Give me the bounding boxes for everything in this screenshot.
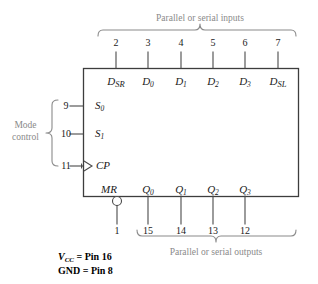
top-section-caption: Parallel or serial inputs <box>156 14 244 24</box>
power-pin-note-0: VCC = Pin 16 <box>58 252 112 262</box>
output-pin-number-14: 14 <box>176 226 186 236</box>
input-pin-number-7: 7 <box>276 38 281 48</box>
power-pin-note-1: GND = Pin 8 <box>58 266 113 276</box>
top-brace <box>98 24 296 36</box>
output-signal-label-0: Q0 <box>142 184 154 195</box>
input-signal-label-0: DSR <box>107 76 124 87</box>
left-pin-number-10: 10 <box>61 129 71 139</box>
input-pin-number-3: 3 <box>146 38 151 48</box>
input-pin-number-4: 4 <box>179 38 184 48</box>
master-reset-inversion-bubble-icon <box>113 197 122 206</box>
mode-control-caption: Modecontrol <box>12 120 39 144</box>
input-pin-number-5: 5 <box>211 38 216 48</box>
left-pin-number-9: 9 <box>64 101 69 111</box>
mode-signal-label-1: S1 <box>95 128 104 139</box>
clock-signal-label: CP <box>96 160 110 171</box>
input-signal-label-4: D3 <box>239 76 251 87</box>
input-signal-label-2: D1 <box>175 76 187 87</box>
pin-diagram-canvas: Parallel or serial inputs2DSR3D04D15D26D… <box>0 0 318 284</box>
output-pin-number-13: 13 <box>208 226 218 236</box>
master-reset-label: MR <box>101 184 117 195</box>
output-pin-number-15: 15 <box>143 226 153 236</box>
clock-lead-arrowhead <box>81 163 83 169</box>
input-pin-number-6: 6 <box>243 38 248 48</box>
mode-control-brace <box>46 100 58 166</box>
input-signal-label-3: D2 <box>207 76 219 87</box>
mode-signal-label-0: S0 <box>95 100 104 111</box>
output-signal-label-2: Q2 <box>207 184 219 195</box>
input-signal-label-5: DSL <box>270 76 287 87</box>
bottom-section-caption: Parallel or serial outputs <box>170 248 263 258</box>
left-pin-number-11: 11 <box>61 161 71 171</box>
diagram-vector-layer <box>0 0 318 284</box>
output-pin-number-1: 1 <box>115 226 120 236</box>
input-signal-label-1: D0 <box>142 76 154 87</box>
input-pin-number-2: 2 <box>114 38 119 48</box>
output-signal-label-1: Q1 <box>175 184 187 195</box>
output-signal-label-3: Q3 <box>239 184 251 195</box>
output-pin-number-12: 12 <box>240 226 250 236</box>
